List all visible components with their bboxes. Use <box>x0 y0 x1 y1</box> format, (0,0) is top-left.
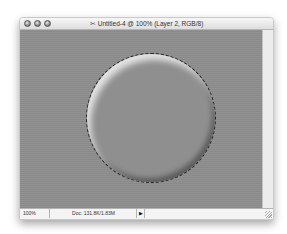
zoom-level-field[interactable]: 100% <box>20 209 50 218</box>
document-size-info: Doc: 131.8K/1.83M <box>51 209 136 218</box>
circular-selection <box>86 53 216 183</box>
resize-grip[interactable] <box>265 211 272 218</box>
status-menu-arrow-icon[interactable]: ▶ <box>136 209 145 218</box>
window-title: ✂Untitled-4 @ 100% (Layer 2, RGB/8) <box>20 19 273 28</box>
title-bar[interactable]: ✂Untitled-4 @ 100% (Layer 2, RGB/8) <box>20 18 273 30</box>
canvas[interactable] <box>20 30 263 209</box>
document-icon: ✂ <box>90 19 96 28</box>
status-bar: 100% Doc: 131.8K/1.83M ▶ <box>20 208 273 219</box>
window-title-text: Untitled-4 @ 100% (Layer 2, RGB/8) <box>98 20 204 27</box>
vertical-scrollbar[interactable] <box>262 30 273 209</box>
document-window: ✂Untitled-4 @ 100% (Layer 2, RGB/8) 100%… <box>19 17 274 220</box>
